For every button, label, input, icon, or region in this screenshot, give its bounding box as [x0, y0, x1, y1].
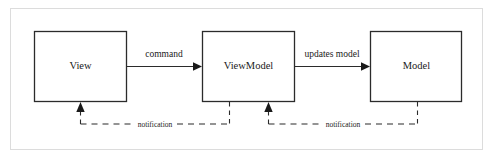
command-arrow: command [127, 49, 202, 71]
notification-viewmodel-to-view-arrow: notification [76, 102, 229, 129]
diagram-canvas: View ViewModel Model command updates mod… [0, 0, 494, 161]
box-model-label: Model [403, 60, 430, 71]
box-view: View [35, 32, 127, 102]
box-model: Model [371, 32, 462, 102]
notification-model-to-viewmodel-arrow: notification [264, 102, 417, 129]
updates-model-arrow: updates model [295, 49, 370, 71]
notification-1-arrowhead-icon [76, 102, 84, 112]
updates-model-arrowhead-icon [361, 62, 370, 70]
notification-1-label: notification [138, 120, 173, 129]
box-viewmodel: ViewModel [203, 32, 295, 102]
mvvm-diagram: View ViewModel Model command updates mod… [0, 0, 494, 161]
box-view-label: View [69, 60, 92, 71]
updates-model-arrow-label: updates model [304, 49, 360, 59]
notification-2-arrowhead-icon [264, 102, 272, 112]
box-viewmodel-label: ViewModel [224, 60, 274, 71]
command-arrow-label: command [145, 49, 183, 59]
command-arrowhead-icon [193, 62, 202, 70]
notification-2-label: notification [326, 120, 361, 129]
